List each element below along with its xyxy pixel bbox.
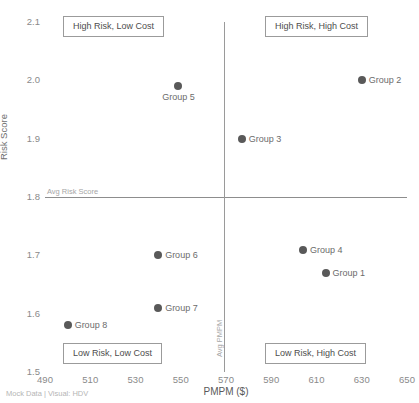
point-marker[interactable] <box>299 246 307 254</box>
point-label: Group 1 <box>333 268 366 278</box>
point-marker[interactable] <box>322 269 330 277</box>
point-label: Group 6 <box>165 250 198 260</box>
footer-note: Mock Data | Visual: HDV <box>6 389 88 398</box>
quadrant-label-top-left: High Risk, Low Cost <box>63 16 164 37</box>
point-label: Group 3 <box>249 134 282 144</box>
x-axis-title: PMPM ($) <box>45 386 407 397</box>
point-label: Group 4 <box>310 245 343 255</box>
x-tick-label: 490 <box>25 374 65 386</box>
point-marker[interactable] <box>358 76 366 84</box>
x-tick-label: 530 <box>116 374 156 386</box>
quadrant-label-top-right: High Risk, High Cost <box>265 16 368 37</box>
x-tick-label: 510 <box>70 374 110 386</box>
y-tick-label: 2.1 <box>10 17 40 27</box>
y-axis-tick-labels: 2.12.01.91.81.71.61.5 <box>0 22 40 372</box>
point-marker[interactable] <box>154 251 162 259</box>
point-label: Group 5 <box>162 92 195 102</box>
quadrant-label-bottom-left: Low Risk, Low Cost <box>63 343 162 364</box>
x-tick-label: 590 <box>251 374 291 386</box>
y-tick-label: 1.6 <box>10 309 40 319</box>
avg-pmpm-label: Avg PMPM <box>215 320 224 357</box>
avg-risk-score-line <box>45 197 407 198</box>
point-marker[interactable] <box>64 321 72 329</box>
point-label: Group 7 <box>165 303 198 313</box>
y-tick-label: 1.7 <box>10 250 40 260</box>
y-tick-label: 2.0 <box>10 75 40 85</box>
scatter-chart: Risk Score 2.12.01.91.81.71.61.5 4905105… <box>0 0 419 403</box>
point-marker[interactable] <box>238 135 246 143</box>
x-tick-label: 650 <box>387 374 419 386</box>
point-label: Group 2 <box>369 75 402 85</box>
avg-risk-score-label: Avg Risk Score <box>47 187 98 196</box>
point-marker[interactable] <box>174 82 182 90</box>
x-tick-label: 550 <box>161 374 201 386</box>
point-label: Group 8 <box>75 320 108 330</box>
y-tick-label: 1.9 <box>10 134 40 144</box>
x-tick-label: 570 <box>206 374 246 386</box>
plot-area: Avg Risk ScoreAvg PMPM High Risk, Low Co… <box>45 22 407 372</box>
x-tick-label: 630 <box>342 374 382 386</box>
y-tick-label: 1.8 <box>10 192 40 202</box>
point-marker[interactable] <box>154 304 162 312</box>
quadrant-label-bottom-right: Low Risk, High Cost <box>265 343 366 364</box>
x-tick-label: 610 <box>297 374 337 386</box>
